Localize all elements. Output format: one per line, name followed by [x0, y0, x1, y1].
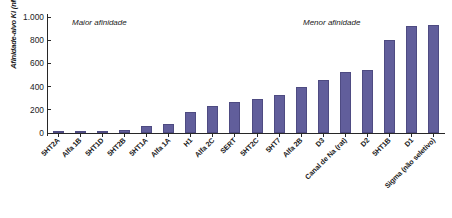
bar-chart-figure: Afinidade-alvo Ki (nM) 02004006008001.00… — [0, 0, 452, 218]
x-axis-tick-mark — [257, 133, 258, 137]
x-axis-tick-mark — [389, 133, 390, 137]
x-axis-tick-mark — [190, 133, 191, 137]
bar-slot — [379, 17, 401, 133]
bar-slot — [224, 17, 246, 133]
x-axis-tick-mark — [411, 133, 412, 137]
annotation-lower-affinity: Menor afinidade — [303, 18, 360, 27]
bar-slot — [312, 17, 334, 133]
y-axis-tick: 800 — [30, 35, 47, 45]
bar — [207, 106, 218, 133]
x-axis-tick-label: H1 — [181, 136, 194, 149]
y-axis-tick-label: 600 — [30, 58, 47, 68]
x-axis-tick-mark — [433, 133, 434, 137]
x-axis-tick-label: 5HT2A — [39, 136, 61, 158]
y-axis-tick: 400 — [30, 82, 47, 92]
x-axis-tick-mark — [58, 133, 59, 137]
bar-slot — [202, 17, 224, 133]
y-axis-tick: 0 — [39, 128, 47, 138]
y-axis-tick-label: 200 — [30, 105, 47, 115]
bar-slot — [91, 17, 113, 133]
x-axis-tick-mark — [124, 133, 125, 137]
x-axis-tick-mark — [168, 133, 169, 137]
bar-slot — [423, 17, 445, 133]
bar — [163, 124, 174, 133]
plot-area: 02004006008001.000 — [47, 17, 445, 133]
x-axis-tick-mark — [345, 133, 346, 137]
x-axis-label-slot: Canal de Na (rat) — [334, 138, 356, 216]
x-axis-label-slot: Alfa 1A — [158, 138, 180, 216]
bar — [252, 99, 263, 133]
y-axis-tick-label: 400 — [30, 82, 47, 92]
bar — [296, 87, 307, 133]
bar — [406, 26, 417, 133]
y-axis-tick-label: 0 — [39, 128, 47, 138]
x-axis-tick-mark — [212, 133, 213, 137]
bar-slot — [290, 17, 312, 133]
bar-slot — [401, 17, 423, 133]
bar-slot — [357, 17, 379, 133]
x-axis-tick-label: D2 — [358, 136, 371, 149]
x-axis-tick-label: D1 — [402, 136, 415, 149]
x-axis-tick-label: D3 — [314, 136, 327, 149]
x-axis-tick-mark — [323, 133, 324, 137]
x-axis-tick-mark — [301, 133, 302, 137]
x-axis-tick-mark — [234, 133, 235, 137]
y-axis-title: Afinidade-alvo Ki (nM) — [9, 0, 18, 92]
bar-series — [47, 17, 445, 133]
x-axis-tick-mark — [146, 133, 147, 137]
bar — [185, 112, 196, 133]
bar-slot — [158, 17, 180, 133]
bar — [274, 95, 285, 133]
x-axis-label-slot: Sigma (não seletivo) — [423, 138, 445, 216]
bar — [362, 70, 373, 133]
y-axis-tick-label: 1.000 — [23, 12, 47, 22]
bar-slot — [113, 17, 135, 133]
bar — [428, 25, 439, 133]
bar — [340, 72, 351, 133]
bar — [141, 126, 152, 133]
x-axis-tick-mark — [367, 133, 368, 137]
bar-slot — [334, 17, 356, 133]
bar-slot — [69, 17, 91, 133]
bar — [318, 80, 329, 133]
bar-slot — [135, 17, 157, 133]
bar-slot — [47, 17, 69, 133]
x-axis-tick-mark — [102, 133, 103, 137]
x-axis-tick-mark — [279, 133, 280, 137]
x-axis-tick-mark — [80, 133, 81, 137]
y-axis-tick-label: 800 — [30, 35, 47, 45]
y-axis-tick: 200 — [30, 105, 47, 115]
bar-slot — [246, 17, 268, 133]
x-axis-labels: 5HT2AAlfa 1B5HT1D5HT2B5HT1AAlfa 1AH1Alfa… — [47, 138, 445, 216]
bar — [229, 102, 240, 133]
bar — [384, 40, 395, 133]
bar-slot — [180, 17, 202, 133]
y-axis-tick: 600 — [30, 58, 47, 68]
bar-slot — [268, 17, 290, 133]
annotation-higher-affinity: Maior afinidade — [72, 18, 127, 27]
y-axis-tick: 1.000 — [23, 12, 47, 22]
